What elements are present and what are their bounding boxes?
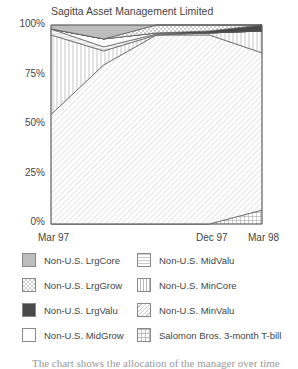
legend-label: Non-U.S. MidValu <box>159 255 234 266</box>
legend-item-tbill: Salomon Bros. 3-month T-bill <box>137 327 281 343</box>
legend-label: Non-U.S. LrgValu <box>44 305 118 316</box>
x-tick-mar97: Mar 97 <box>38 232 69 243</box>
legend-swatch-minvalu <box>137 303 151 317</box>
area-layers <box>51 25 262 224</box>
legend-item-midgrow: Non-U.S. MidGrow <box>22 327 124 343</box>
x-tick-dec97: Dec 97 <box>196 232 228 243</box>
legend-swatch-midvalu <box>137 253 151 267</box>
legend-item-midvalu: Non-U.S. MidValu <box>137 252 234 268</box>
caption-text: The chart shows the allocation of the ma… <box>32 357 280 369</box>
legend-label: Non-U.S. MinValu <box>159 305 234 316</box>
x-tick-mar98: Mar 98 <box>248 232 279 243</box>
legend-swatch-midgrow <box>22 328 36 342</box>
legend-swatch-tbill <box>137 328 151 342</box>
legend-item-mincore: Non-U.S. MinCore <box>137 277 237 293</box>
legend-swatch-lrggrow <box>22 278 36 292</box>
legend-item-minvalu: Non-U.S. MinValu <box>137 302 234 318</box>
legend-label: Non-U.S. LrgCore <box>44 255 120 266</box>
legend-label: Non-U.S. MidGrow <box>44 330 124 341</box>
legend-swatch-lrgcore <box>22 253 36 267</box>
legend-swatch-lrgvalu <box>22 303 36 317</box>
legend-label: Salomon Bros. 3-month T-bill <box>159 330 281 341</box>
legend-label: Non-U.S. MinCore <box>159 280 237 291</box>
legend-item-lrgcore: Non-U.S. LrgCore <box>22 252 120 268</box>
legend-item-lrgvalu: Non-U.S. LrgValu <box>22 302 118 318</box>
legend-item-lrggrow: Non-U.S. LrgGrow <box>22 277 122 293</box>
stacked-area-plot <box>0 0 298 240</box>
legend-label: Non-U.S. LrgGrow <box>44 280 122 291</box>
legend-swatch-mincore <box>137 278 151 292</box>
